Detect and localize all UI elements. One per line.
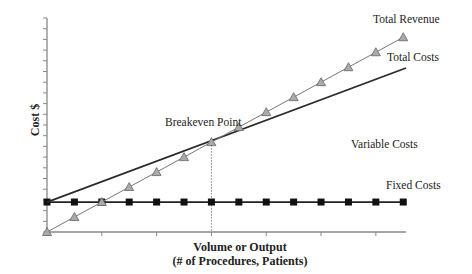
square-marker-icon: [181, 199, 188, 206]
x-axis-title-line2: (# of Procedures, Patients): [160, 254, 320, 268]
square-marker-icon: [71, 199, 78, 206]
triangle-marker-icon: [344, 63, 353, 71]
breakeven-point-label: Breakeven Point: [165, 116, 241, 128]
total-costs-line: [47, 68, 406, 202]
triangle-marker-icon: [70, 213, 79, 221]
square-marker-icon: [208, 199, 215, 206]
triangle-marker-icon: [399, 33, 408, 41]
square-marker-icon: [235, 199, 242, 206]
total-costs-series: [47, 68, 406, 202]
x-axis-title: Volume or Output (# of Procedures, Patie…: [160, 240, 320, 268]
x-axis-title-line1: Volume or Output: [160, 240, 320, 254]
square-marker-icon: [345, 199, 352, 206]
total-revenue-series: [43, 33, 408, 236]
triangle-marker-icon: [180, 153, 189, 161]
square-marker-icon: [263, 199, 270, 206]
breakeven-chart: [0, 0, 472, 274]
triangle-marker-icon: [317, 78, 326, 86]
triangle-marker-icon: [125, 183, 134, 191]
variable-costs-label: Variable Costs: [351, 138, 418, 150]
total-revenue-label: Total Revenue: [373, 13, 440, 25]
square-marker-icon: [372, 199, 379, 206]
square-marker-icon: [153, 199, 160, 206]
fixed-costs-label: Fixed Costs: [386, 179, 441, 191]
square-marker-icon: [126, 199, 133, 206]
total-costs-label: Total Costs: [387, 51, 439, 63]
y-axis-title: Cost $: [28, 90, 43, 150]
triangle-marker-icon: [152, 168, 161, 176]
square-marker-icon: [318, 199, 325, 206]
square-marker-icon: [400, 199, 407, 206]
triangle-marker-icon: [289, 93, 298, 101]
square-marker-icon: [290, 199, 297, 206]
triangle-marker-icon: [262, 108, 271, 116]
triangle-marker-icon: [371, 48, 380, 56]
